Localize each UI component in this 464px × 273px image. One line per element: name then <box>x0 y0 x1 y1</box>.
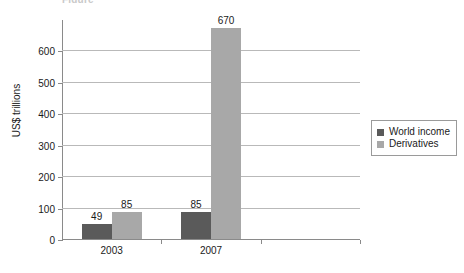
x-tick-separator <box>360 240 361 244</box>
y-axis-title: US$ trillions <box>11 51 22 171</box>
chart-title-cropped: Figure <box>62 0 362 3</box>
x-tick-separator <box>261 240 262 244</box>
plot-area: 0100200300400500600 498585670 20032007 <box>62 20 360 240</box>
bar-value-label: 85 <box>121 199 132 210</box>
y-tick-label: 0 <box>49 235 55 246</box>
bar-2007-world-income: 85 <box>181 212 211 239</box>
y-tick-mark <box>58 209 62 210</box>
x-axis-label-2007: 2007 <box>200 245 222 256</box>
y-tick-mark <box>58 51 62 52</box>
x-tick-separator <box>161 240 162 244</box>
chart-legend: World incomeDerivatives <box>371 120 457 156</box>
legend-swatch-icon <box>377 141 384 148</box>
bar-2007-derivatives: 670 <box>211 28 241 239</box>
y-tick-mark <box>58 240 62 241</box>
legend-item-derivatives[interactable]: Derivatives <box>377 139 450 149</box>
x-axis-line <box>62 239 360 240</box>
bar-2003-world-income: 49 <box>82 224 112 239</box>
legend-swatch-icon <box>377 129 384 136</box>
legend-label: Derivatives <box>389 139 438 149</box>
y-tick-mark <box>58 83 62 84</box>
y-tick-mark <box>58 146 62 147</box>
y-tick-label: 500 <box>38 77 55 88</box>
bar-value-label: 85 <box>190 199 201 210</box>
y-tick-label: 400 <box>38 109 55 120</box>
y-tick-mark <box>58 114 62 115</box>
y-tick-label: 100 <box>38 203 55 214</box>
y-tick-mark <box>58 177 62 178</box>
bar-value-label: 49 <box>91 211 102 222</box>
legend-item-world-income[interactable]: World income <box>377 127 450 137</box>
y-tick-label: 200 <box>38 172 55 183</box>
x-axis-label-2003: 2003 <box>101 245 123 256</box>
y-tick-label: 300 <box>38 140 55 151</box>
legend-label: World income <box>389 127 450 137</box>
y-tick-label: 600 <box>38 46 55 57</box>
bar-value-label: 670 <box>218 15 235 26</box>
bar-chart: Figure US$ trillions 0100200300400500600… <box>0 0 464 273</box>
bar-2003-derivatives: 85 <box>112 212 142 239</box>
